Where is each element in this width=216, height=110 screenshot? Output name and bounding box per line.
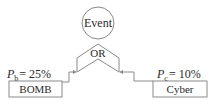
connector-bomb — [62, 70, 77, 82]
connector-cyber — [119, 70, 153, 81]
event-label: Event — [84, 16, 113, 30]
arrow-icon — [119, 70, 123, 74]
gate-label: OR — [90, 47, 106, 59]
fault-tree-diagram: Event OR Pb= 25% BOMB Pc= 10% Cyber — [0, 0, 216, 110]
bomb-label: BOMB — [19, 83, 51, 95]
or-gate: OR — [77, 44, 119, 72]
top-event-node: Event — [82, 7, 114, 39]
input-bomb: Pb= 25% BOMB — [6, 67, 62, 97]
input-cyber: Pc= 10% Cyber — [153, 67, 207, 97]
cyber-label: Cyber — [167, 83, 194, 95]
arrow-icon — [73, 70, 77, 74]
